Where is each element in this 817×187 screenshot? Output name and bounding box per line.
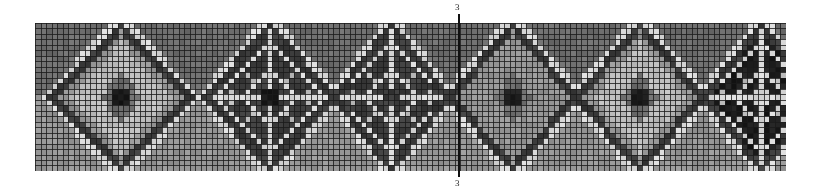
center-marker-top-label: 3: [455, 3, 460, 12]
center-marker-line: [458, 14, 460, 177]
center-marker-bottom-label: 3: [455, 179, 460, 187]
pattern-grid: [35, 23, 786, 171]
pattern-chart: [35, 23, 786, 171]
